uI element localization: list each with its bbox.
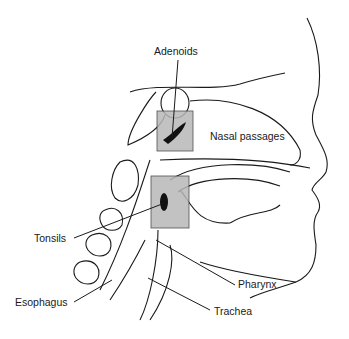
label-esophagus: Esophagus [15, 296, 68, 308]
label-nasal-passages: Nasal passages [210, 130, 285, 142]
label-trachea: Trachea [214, 305, 252, 317]
anatomy-diagram: Adenoids Nasal passages Tonsils Pharynx … [0, 0, 349, 339]
label-pharynx: Pharynx [238, 278, 277, 290]
label-adenoids: Adenoids [154, 45, 198, 57]
label-tonsils: Tonsils [34, 232, 66, 244]
face-profile [250, 18, 327, 298]
tonsils-highlight-box [151, 176, 189, 228]
